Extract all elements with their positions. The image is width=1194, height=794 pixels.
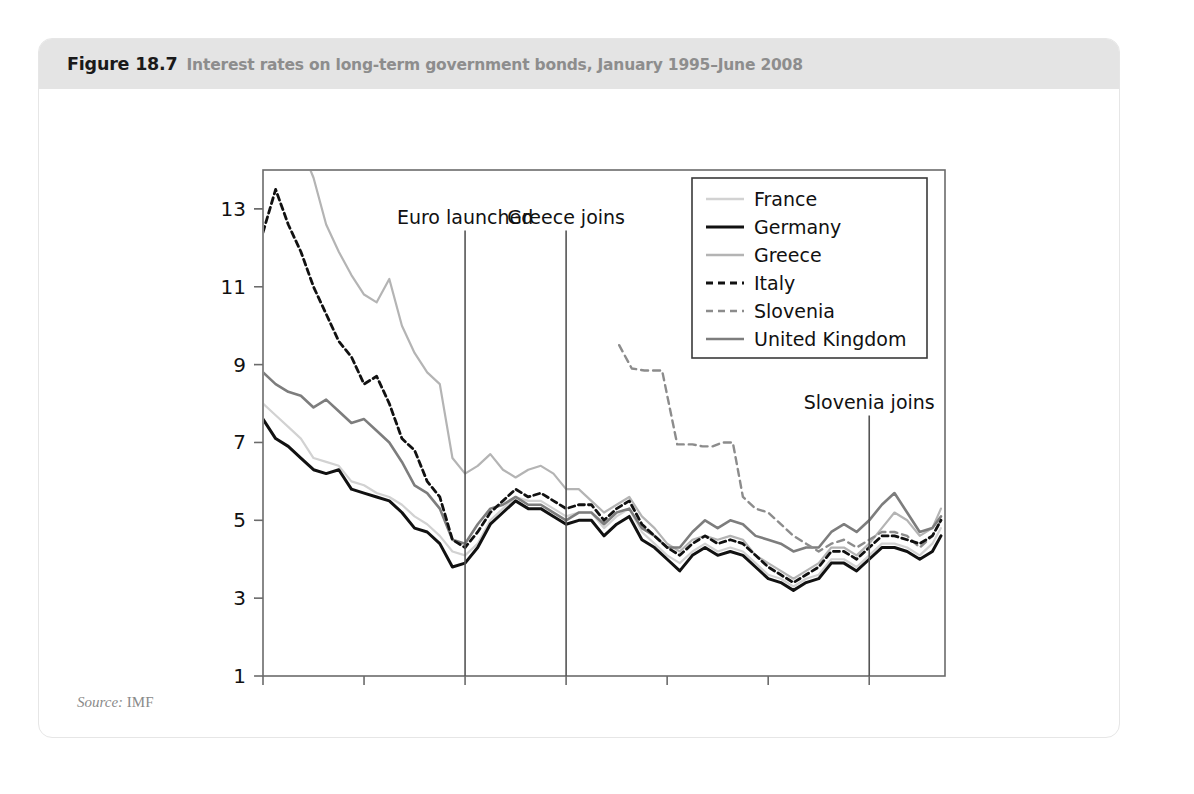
legend-label-greece: Greece (754, 244, 822, 266)
y-tick-label: 9 (233, 353, 246, 377)
y-tick-label: 3 (233, 586, 246, 610)
figure-title: Interest rates on long-term government b… (187, 56, 803, 74)
figure-header: Figure 18.7 Interest rates on long-term … (39, 39, 1119, 89)
legend-label-germany: Germany (754, 216, 841, 238)
series-line-germany (263, 419, 941, 590)
annotation-label-slovenia-joins: Slovenia joins (804, 391, 935, 413)
figure-number: Figure 18.7 (67, 54, 178, 74)
line-chart: 135791113 1995M11997M11999M12001M12003M1… (39, 89, 1120, 689)
chart-legend: FranceGermanyGreeceItalySloveniaUnited K… (692, 178, 927, 358)
legend-label-france: France (754, 188, 817, 210)
chart-plot-area: 135791113 1995M11997M11999M12001M12003M1… (39, 89, 1119, 689)
annotation-label-greece-joins: Greece joins (507, 206, 625, 228)
legend-label-italy: Italy (754, 272, 795, 294)
source-label: Source: (77, 694, 123, 710)
x-axis: 1995M11997M11999M12001M12003M12005M12007… (223, 676, 910, 689)
legend-label-slovenia: Slovenia (754, 300, 835, 322)
series-line-france (263, 404, 941, 587)
figure-source: Source: IMF (77, 694, 154, 711)
y-tick-label: 7 (233, 430, 246, 454)
source-value: IMF (127, 694, 154, 710)
series-line-slovenia (619, 345, 941, 551)
y-tick-label: 1 (233, 664, 246, 688)
y-tick-label: 11 (221, 275, 246, 299)
y-tick-label: 5 (233, 508, 246, 532)
figure-card: Figure 18.7 Interest rates on long-term … (38, 38, 1120, 738)
y-tick-label: 13 (221, 197, 246, 221)
y-axis: 135791113 (221, 197, 263, 688)
legend-label-united_kingdom: United Kingdom (754, 328, 907, 350)
